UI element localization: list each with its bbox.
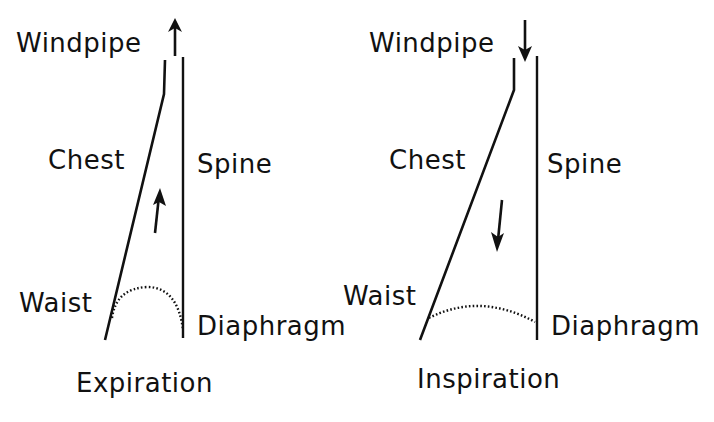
waist-label: Waist [19,290,92,316]
expiration-caption: Expiration [76,370,213,396]
chest-label: Chest [48,147,125,173]
windpipe-label: Windpipe [369,30,495,56]
inspiration-caption: Inspiration [417,366,560,392]
waist-label: Waist [343,283,416,309]
spine-label: Spine [547,151,622,177]
diaphragm-label: Diaphragm [197,313,346,339]
inspiration-diagram [420,20,537,340]
diaphragm-dotted-arc [112,287,183,330]
expiration-diagram [105,18,183,340]
windpipe-label: Windpipe [16,30,142,56]
chest-label: Chest [389,147,466,173]
breathing-diagram-canvas [0,0,714,422]
chest-wall-line [420,58,514,340]
spine-label: Spine [197,151,272,177]
internal-down-arrow-icon [498,200,502,240]
diaphragm-label: Diaphragm [551,313,700,339]
diaphragm-dotted-arc [429,306,535,322]
